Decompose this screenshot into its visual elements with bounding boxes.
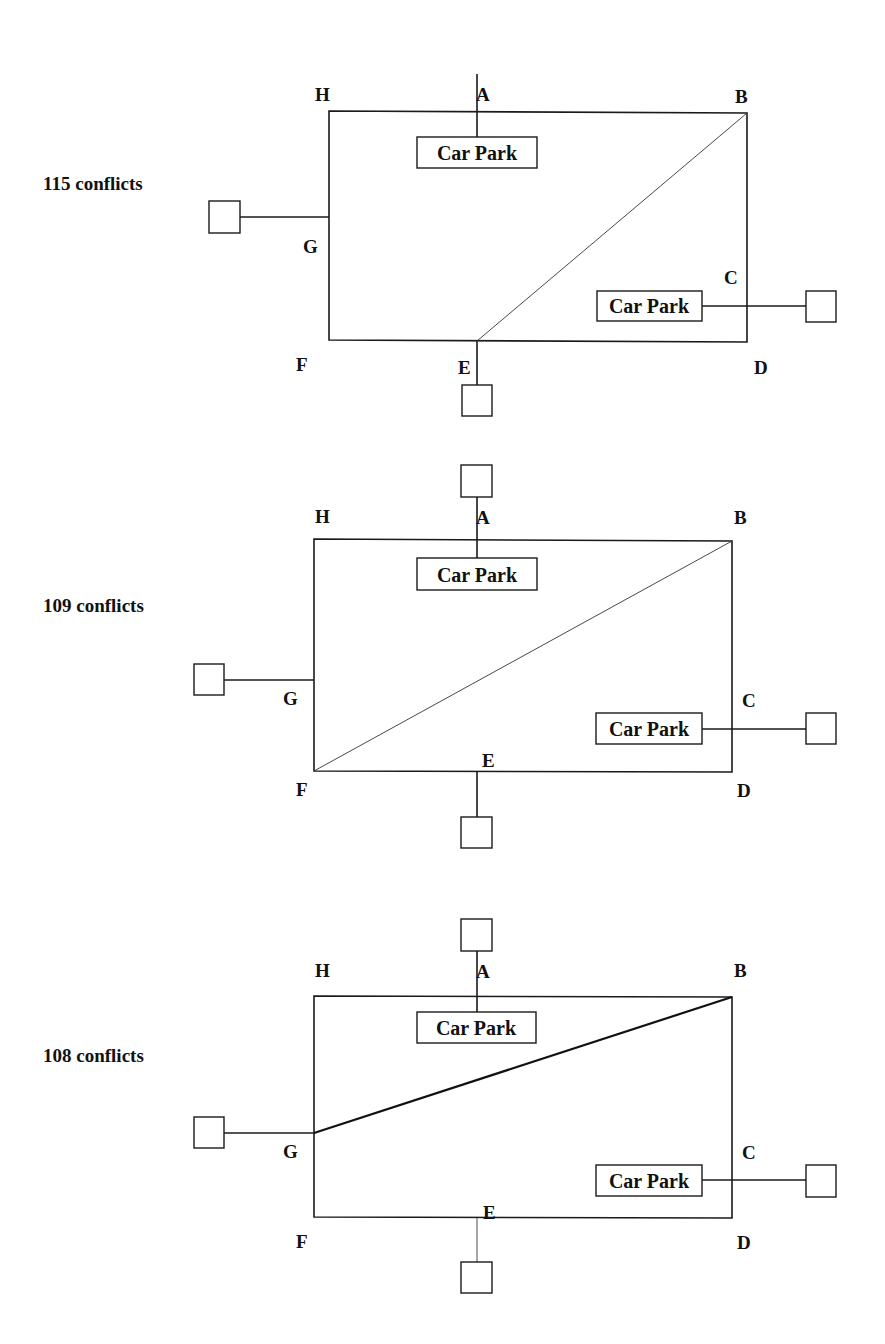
point-f: F <box>296 1231 308 1252</box>
point-e: E <box>483 1202 496 1223</box>
point-d: D <box>737 780 751 801</box>
point-e: E <box>482 750 495 771</box>
diagram-109: 109 conflicts Car Park Car Park H A B C … <box>43 465 836 848</box>
point-e: E <box>458 357 471 378</box>
point-g: G <box>283 688 298 709</box>
junction-square <box>462 385 492 416</box>
diagram-108: 108 conflicts Car Park Car Park H A B C … <box>43 919 836 1293</box>
point-f: F <box>296 354 308 375</box>
point-a: A <box>476 507 490 528</box>
point-g: G <box>283 1141 298 1162</box>
point-b: B <box>734 960 747 981</box>
point-h: H <box>315 960 330 981</box>
car-park-label: Car Park <box>437 564 518 586</box>
point-d: D <box>754 357 768 378</box>
junction-square <box>209 201 240 233</box>
point-c: C <box>742 690 756 711</box>
junction-square <box>194 664 224 695</box>
point-f: F <box>296 779 308 800</box>
diagram-115: 115 conflicts Car Park Car Park H A B C … <box>43 74 836 416</box>
junction-square <box>461 465 492 497</box>
junction-square <box>806 1165 836 1197</box>
point-c: C <box>724 267 738 288</box>
point-b: B <box>735 86 748 107</box>
junction-square <box>194 1117 224 1148</box>
junction-square <box>461 1262 492 1293</box>
car-park-label: Car Park <box>609 295 690 317</box>
point-a: A <box>476 84 490 105</box>
car-park-label: Car Park <box>436 1017 517 1039</box>
car-park-label: Car Park <box>437 142 518 164</box>
conflicts-label: 109 conflicts <box>43 595 144 616</box>
junction-square <box>461 919 492 951</box>
point-h: H <box>315 84 330 105</box>
conflicts-label: 108 conflicts <box>43 1045 144 1066</box>
conflicts-label: 115 conflicts <box>43 173 143 194</box>
point-h: H <box>315 506 330 527</box>
point-d: D <box>737 1232 751 1253</box>
point-a: A <box>476 961 490 982</box>
point-g: G <box>303 236 318 257</box>
junction-square <box>806 713 836 744</box>
junction-square <box>461 817 492 848</box>
junction-square <box>806 291 836 322</box>
car-park-label: Car Park <box>609 1170 690 1192</box>
point-b: B <box>734 507 747 528</box>
car-park-label: Car Park <box>609 718 690 740</box>
point-c: C <box>742 1142 756 1163</box>
conflict-diagrams: 115 conflicts Car Park Car Park H A B C … <box>0 0 885 1344</box>
